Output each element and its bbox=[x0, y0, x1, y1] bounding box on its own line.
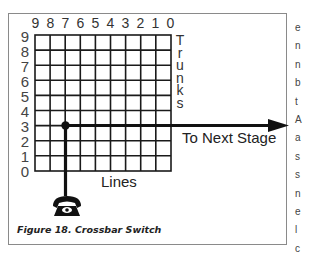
body-text-line: n bbox=[295, 37, 311, 55]
arrow-label: To Next Stage bbox=[182, 129, 276, 146]
body-text-line: e bbox=[295, 203, 311, 221]
body-text-line: l bbox=[295, 221, 311, 239]
body-text-line: a bbox=[295, 129, 311, 147]
body-text-line: s bbox=[295, 166, 311, 184]
body-text-column: e n n b t A a s s n e l c bbox=[295, 19, 311, 257]
body-text-line: t bbox=[295, 93, 311, 111]
body-text-line: e bbox=[295, 19, 311, 37]
trunks-letter: s bbox=[174, 97, 186, 110]
crosspoint-dot bbox=[61, 121, 69, 129]
lines-axis-title: Lines bbox=[101, 173, 137, 190]
body-text-line: n bbox=[295, 185, 311, 203]
telephone-icon bbox=[53, 196, 81, 216]
body-text-line: c bbox=[295, 240, 311, 257]
body-text-line: A bbox=[295, 111, 311, 129]
body-text-line: n bbox=[295, 56, 311, 74]
body-text-line: b bbox=[295, 74, 311, 92]
body-text-line: s bbox=[295, 148, 311, 166]
trunks-axis-title: T r u n k s bbox=[174, 34, 186, 109]
figure-caption: Figure 18. Crossbar Switch bbox=[17, 224, 161, 235]
